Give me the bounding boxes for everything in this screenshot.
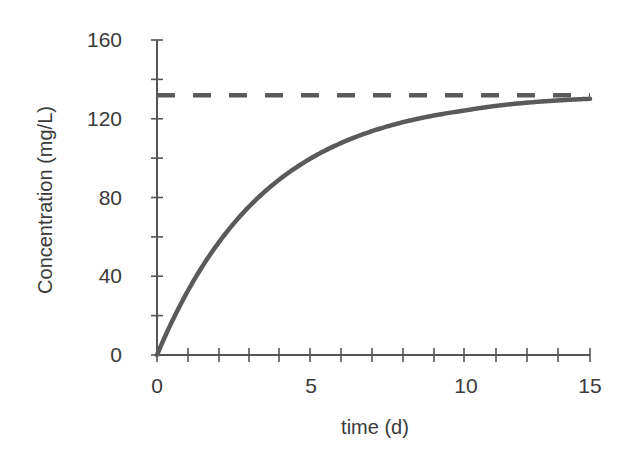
y-tick-label: 80: [99, 186, 122, 209]
x-axis: 051015: [151, 348, 602, 397]
concentration-chart: 04080120160 051015 Concentration (mg/L) …: [0, 0, 631, 464]
x-tick-label: 0: [151, 374, 163, 397]
x-tick-label: 5: [305, 374, 317, 397]
x-tick-label: 15: [578, 374, 601, 397]
y-tick-label: 0: [110, 343, 122, 366]
plot-area: [157, 95, 590, 355]
x-axis-title: time (d): [341, 416, 409, 438]
y-tick-label: 40: [99, 264, 122, 287]
concentration-curve: [157, 99, 590, 355]
y-axis: 04080120160: [87, 28, 163, 366]
y-tick-label: 160: [87, 28, 122, 51]
y-tick-label: 120: [87, 107, 122, 130]
x-tick-label: 10: [454, 374, 477, 397]
y-axis-title: Concentration (mg/L): [34, 106, 56, 294]
